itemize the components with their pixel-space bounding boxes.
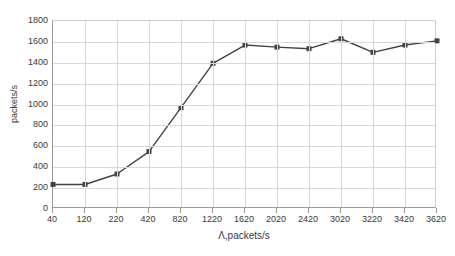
x-tick-mark	[52, 208, 53, 213]
x-gridline	[117, 21, 118, 207]
y-gridline	[53, 188, 435, 189]
x-tick-mark	[148, 208, 149, 213]
x-gridline	[341, 21, 342, 207]
y-tick-label: 200	[20, 182, 48, 192]
x-tick-mark	[244, 208, 245, 213]
x-tick-mark	[84, 208, 85, 213]
y-tick-label: 600	[20, 140, 48, 150]
x-tick-mark	[116, 208, 117, 213]
y-gridline	[53, 125, 435, 126]
y-tick-label: 1800	[20, 15, 48, 25]
x-tick-label: 2020	[266, 214, 286, 224]
x-tick-mark	[340, 208, 341, 213]
x-tick-label: 820	[172, 214, 187, 224]
x-tick-label: 3020	[330, 214, 350, 224]
y-gridline	[53, 63, 435, 64]
x-tick-label: 3220	[362, 214, 382, 224]
x-tick-mark	[404, 208, 405, 213]
y-gridline	[53, 146, 435, 147]
x-tick-label: 1220	[202, 214, 222, 224]
y-gridline	[53, 42, 435, 43]
y-tick-label: 0	[20, 203, 48, 213]
x-gridline	[309, 21, 310, 207]
data-point	[435, 38, 440, 43]
x-tick-mark	[308, 208, 309, 213]
plot-area	[52, 20, 436, 208]
x-tick-label: 1620	[234, 214, 254, 224]
x-gridline	[213, 21, 214, 207]
y-tick-label: 800	[20, 119, 48, 129]
y-tick-label: 1600	[20, 36, 48, 46]
x-tick-mark	[372, 208, 373, 213]
data-point	[51, 182, 56, 187]
x-tick-label: 40	[47, 214, 57, 224]
y-tick-label: 400	[20, 161, 48, 171]
x-tick-label: 220	[108, 214, 123, 224]
x-gridline	[181, 21, 182, 207]
y-tick-label: 1000	[20, 99, 48, 109]
x-tick-mark	[180, 208, 181, 213]
y-axis-title-label: packets/s	[9, 85, 19, 123]
x-tick-label: 3620	[426, 214, 446, 224]
x-tick-label: 420	[140, 214, 155, 224]
x-axis-tick-labels: 4012022042082012201620202024203020322034…	[52, 208, 436, 230]
line-chart: packets/s 020040060080010001200140016001…	[0, 0, 455, 256]
x-gridline	[85, 21, 86, 207]
y-gridline	[53, 84, 435, 85]
x-tick-label: 120	[76, 214, 91, 224]
x-tick-label: 3420	[394, 214, 414, 224]
x-gridline	[277, 21, 278, 207]
x-gridline	[405, 21, 406, 207]
x-gridline	[373, 21, 374, 207]
x-tick-mark	[276, 208, 277, 213]
x-tick-label: 2420	[298, 214, 318, 224]
y-axis-tick-labels: 020040060080010001200140016001800	[20, 0, 48, 224]
y-tick-label: 1400	[20, 57, 48, 67]
x-tick-mark	[436, 208, 437, 213]
x-axis-title: Λ,packets/s	[52, 230, 436, 241]
y-tick-label: 1200	[20, 78, 48, 88]
x-tick-mark	[212, 208, 213, 213]
y-gridline	[53, 105, 435, 106]
x-gridline	[149, 21, 150, 207]
y-gridline	[53, 167, 435, 168]
x-gridline	[245, 21, 246, 207]
